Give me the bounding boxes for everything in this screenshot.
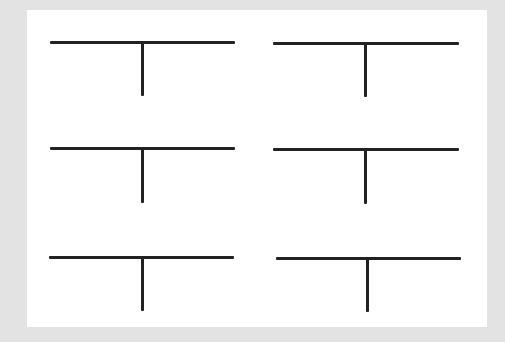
- white-panel: [27, 10, 487, 327]
- tee-vertical-stem: [364, 43, 367, 97]
- tee-vertical-stem: [141, 42, 144, 96]
- tee-vertical-stem: [141, 257, 144, 311]
- tee-vertical-stem: [141, 148, 144, 203]
- tee-vertical-stem: [364, 149, 367, 204]
- tee-vertical-stem: [366, 258, 369, 312]
